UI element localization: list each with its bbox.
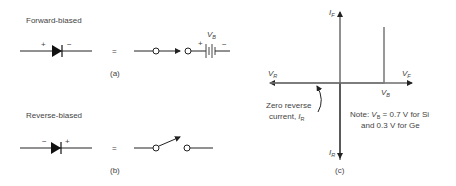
battery-icon	[206, 44, 215, 58]
open-switch	[134, 137, 213, 151]
diode-symbol-reverse	[20, 142, 92, 154]
annotation-line1: Zero reverse	[266, 101, 312, 110]
diode-symbol-forward	[20, 45, 92, 57]
diode-bias-diagram: Forward-biased + − = + − VB (a)	[0, 0, 456, 186]
panel-b-reverse-biased: Reverse-biased − + = (b)	[20, 111, 213, 175]
annotation-arrow	[317, 86, 321, 112]
reverse-biased-title: Reverse-biased	[26, 111, 82, 120]
cathode-minus-sign: −	[67, 40, 72, 49]
anode-plus-sign: +	[65, 137, 70, 146]
equals-sign: =	[112, 144, 117, 153]
label-ir: IR	[329, 148, 335, 158]
battery-minus-sign: −	[222, 40, 227, 49]
equals-sign: =	[112, 47, 117, 56]
panel-a-forward-biased: Forward-biased + − = + − VB (a)	[20, 16, 230, 78]
terminal-circle	[153, 48, 159, 54]
forward-biased-title: Forward-biased	[26, 16, 82, 25]
caption-a: (a)	[110, 69, 120, 78]
label-vb: VB	[381, 88, 390, 98]
caption-c: (c)	[335, 166, 345, 175]
cathode-minus-sign: −	[42, 137, 47, 146]
iv-trace	[270, 27, 384, 83]
closed-switch-with-battery	[134, 44, 230, 58]
anode-plus-sign: +	[41, 40, 46, 49]
panel-c-ideal-iv-curve: IF IR VR VF VB Zero reverse current, IR …	[266, 8, 429, 175]
terminal-circle	[185, 48, 191, 54]
label-vr: VR	[268, 69, 277, 79]
label-vf: VF	[402, 69, 411, 79]
battery-plus-sign: +	[198, 39, 203, 48]
note-line1: Note: VB = 0.7 V for Si	[350, 110, 429, 120]
annotation-line2: current, IR	[269, 112, 305, 122]
battery-label-vb: VB	[207, 30, 216, 40]
caption-b: (b)	[110, 166, 120, 175]
label-if: IF	[329, 8, 335, 18]
note-line2: and 0.3 V for Ge	[361, 121, 420, 130]
